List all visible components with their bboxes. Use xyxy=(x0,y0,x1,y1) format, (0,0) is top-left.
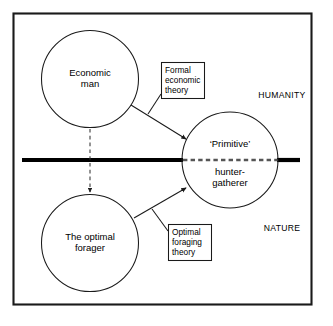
diagram-figure: Economic man ‘Primitive’ hunter- gathere… xyxy=(0,0,333,326)
annotation-box-optimal-foraging-theory xyxy=(169,225,212,261)
annotation-box-formal-economic-theory xyxy=(162,63,205,99)
diagram-canvas xyxy=(0,0,333,326)
